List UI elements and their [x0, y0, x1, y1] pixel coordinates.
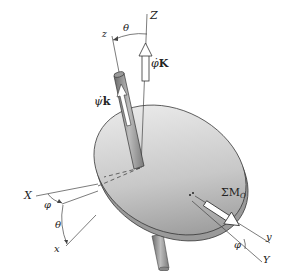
x-axis: [66, 215, 96, 246]
lower-rod: [152, 234, 169, 271]
label-moment: ΣMO: [221, 187, 246, 200]
label-precession: φ̇K: [151, 58, 168, 69]
label-Z: Z: [150, 10, 158, 21]
gyroscope-diagram: Z z θ φ̇K ψ̇k X φ θ x ΣMO φ y Y: [0, 0, 284, 271]
label-phi-right: φ: [234, 240, 241, 250]
label-z: z: [102, 30, 107, 39]
label-y: y: [266, 232, 272, 242]
theta-arc-top: [113, 34, 147, 40]
label-X: X: [24, 190, 32, 201]
label-Y: Y: [263, 255, 270, 265]
diagram-graphics: [0, 0, 284, 271]
label-x: x: [54, 244, 60, 254]
label-phi-left: φ: [44, 200, 51, 210]
z-axis: [112, 36, 119, 72]
label-theta-top: θ: [123, 23, 129, 33]
label-theta-left: θ: [55, 220, 61, 230]
label-spin: ψ̇k: [94, 96, 110, 107]
